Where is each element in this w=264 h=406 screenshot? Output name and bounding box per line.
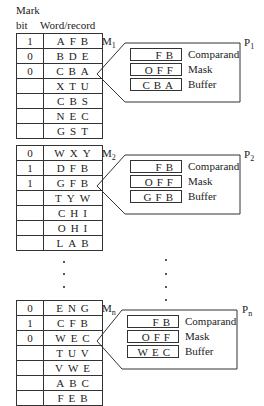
mark-bit-cell: 1 bbox=[17, 34, 44, 49]
buffer-register: GFB bbox=[130, 190, 182, 203]
word-cell: CFB bbox=[44, 316, 103, 331]
buffer-label: Buffer bbox=[188, 190, 217, 203]
table-row: CBS bbox=[17, 94, 103, 109]
mask-label: Mask bbox=[188, 63, 212, 76]
word-cell: XTU bbox=[44, 79, 103, 94]
word-cell: FEB bbox=[44, 391, 103, 406]
mark-bit-cell bbox=[17, 346, 44, 361]
memory-subscript: n bbox=[112, 308, 116, 317]
word-cell: AFB bbox=[44, 34, 103, 49]
mark-bit-cell: 1 bbox=[17, 316, 44, 331]
word-cell: WEC bbox=[44, 331, 103, 346]
word-cell: CBA bbox=[44, 64, 103, 79]
table-row: CHI bbox=[17, 206, 103, 221]
buffer-label: Buffer bbox=[188, 78, 217, 91]
table-row: GST bbox=[17, 124, 103, 139]
mask-register: OFF bbox=[130, 63, 182, 76]
mask-register: OFF bbox=[130, 175, 182, 188]
table-row: 0 BDE bbox=[17, 49, 103, 64]
mark-bit-cell bbox=[17, 206, 44, 221]
comparand-label: Comparand bbox=[185, 315, 236, 328]
mark-bit-cell: 0 bbox=[17, 64, 44, 79]
mark-bit-cell: 0 bbox=[17, 331, 44, 346]
comparand-register: FB bbox=[127, 315, 179, 328]
table-row: 0 ENG bbox=[17, 301, 103, 316]
mark-bit-cell bbox=[17, 236, 44, 251]
buffer-register: WEC bbox=[127, 345, 179, 358]
ellipsis-dot bbox=[165, 273, 167, 275]
word-cell: ENG bbox=[44, 301, 103, 316]
ellipsis-dot bbox=[165, 299, 167, 301]
word-cell: WXY bbox=[44, 146, 103, 161]
processor-subscript: n bbox=[248, 309, 252, 318]
mark-bit-cell bbox=[17, 221, 44, 236]
mark-bit-cell bbox=[17, 391, 44, 406]
table-row: 0 CBA bbox=[17, 64, 103, 79]
comparand-register: FB bbox=[130, 160, 182, 173]
comparand-label: Comparand bbox=[188, 48, 239, 61]
mark-bit-cell bbox=[17, 94, 44, 109]
comparand-label: Comparand bbox=[188, 160, 239, 173]
buffer-label: Buffer bbox=[185, 345, 214, 358]
table-row: NEC bbox=[17, 109, 103, 124]
table-row: TYW bbox=[17, 191, 103, 206]
processor-subscript: 1 bbox=[250, 42, 254, 51]
table-row: VWE bbox=[17, 361, 103, 376]
mark-bit-cell bbox=[17, 79, 44, 94]
table-row: 1 DFB bbox=[17, 161, 103, 176]
memory-label: Mn bbox=[102, 302, 116, 317]
memory-letter: M bbox=[102, 147, 112, 159]
memory-table: 1 AFB 0 BDE 0 CBA XTU CBS NEC GST bbox=[16, 33, 103, 139]
word-cell: BDE bbox=[44, 49, 103, 64]
ellipsis-dot bbox=[63, 273, 65, 275]
ellipsis-dot bbox=[165, 286, 167, 288]
table-row: LAB bbox=[17, 236, 103, 251]
word-cell: GFB bbox=[44, 176, 103, 191]
memory-table: 0 WXY 1 DFB 1 GFB TYW CHI OHI LAB bbox=[16, 145, 103, 251]
mark-bit-cell bbox=[17, 124, 44, 139]
mark-bit-cell: 0 bbox=[17, 146, 44, 161]
comparand-register: FB bbox=[130, 48, 182, 61]
mark-bit-cell bbox=[17, 376, 44, 391]
mark-bit-cell bbox=[17, 191, 44, 206]
table-row: XTU bbox=[17, 79, 103, 94]
word-cell: VWE bbox=[44, 361, 103, 376]
mask-label: Mask bbox=[185, 330, 209, 343]
mark-bit-cell: 1 bbox=[17, 176, 44, 191]
mark-bit-cell: 0 bbox=[17, 49, 44, 64]
memory-subscript: 2 bbox=[112, 153, 116, 162]
memory-letter: M bbox=[102, 302, 112, 314]
table-row: ABC bbox=[17, 376, 103, 391]
mark-bit-cell bbox=[17, 361, 44, 376]
word-cell: GST bbox=[44, 124, 103, 139]
table-row: 1 AFB bbox=[17, 34, 103, 49]
word-cell: CHI bbox=[44, 206, 103, 221]
processor-label: Pn bbox=[242, 303, 252, 318]
table-row: FEB bbox=[17, 391, 103, 406]
word-cell: TYW bbox=[44, 191, 103, 206]
buffer-register: CBA bbox=[130, 78, 182, 91]
table-row: 1 CFB bbox=[17, 316, 103, 331]
table-row: OHI bbox=[17, 221, 103, 236]
memory-letter: M bbox=[102, 35, 112, 47]
memory-subscript: 1 bbox=[112, 41, 116, 50]
memory-label: M2 bbox=[102, 147, 116, 162]
mark-bit-cell: 1 bbox=[17, 161, 44, 176]
mask-label: Mask bbox=[188, 175, 212, 188]
mark-bit-cell: 0 bbox=[17, 301, 44, 316]
table-row: 0 WXY bbox=[17, 146, 103, 161]
processor-label: P1 bbox=[244, 36, 254, 51]
word-cell: CBS bbox=[44, 94, 103, 109]
word-cell: NEC bbox=[44, 109, 103, 124]
memory-table: 0 ENG 1 CFB 0 WEC TUV VWE ABC FEB bbox=[16, 300, 103, 406]
ellipsis-dot bbox=[165, 259, 167, 261]
processor-label: P2 bbox=[244, 148, 254, 163]
mark-bit-cell bbox=[17, 109, 44, 124]
word-cell: TUV bbox=[44, 346, 103, 361]
word-cell: ABC bbox=[44, 376, 103, 391]
table-row: 1 GFB bbox=[17, 176, 103, 191]
table-row: TUV bbox=[17, 346, 103, 361]
word-cell: DFB bbox=[44, 161, 103, 176]
memory-label: M1 bbox=[102, 35, 116, 50]
mask-register: OFF bbox=[127, 330, 179, 343]
